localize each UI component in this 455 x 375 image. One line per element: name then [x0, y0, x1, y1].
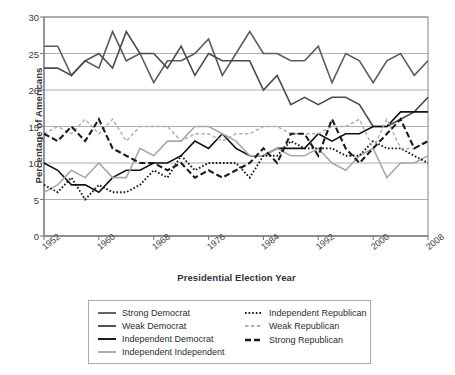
legend-item-label: Strong Democrat: [122, 308, 190, 318]
legend-item-independent-independent[interactable]: Independent Independent: [97, 345, 244, 358]
legend-item-weak-republican[interactable]: Weak Republican: [244, 320, 364, 334]
legend-item-strong-republican[interactable]: Strong Republican: [244, 333, 364, 347]
legend-item-label: Strong Republican: [269, 335, 343, 345]
legend-item-label: Independent Republican: [269, 308, 367, 318]
legend-swatch-icon: [97, 334, 117, 344]
legend-swatch-icon: [244, 321, 264, 331]
chart-figure: 051015202530 Percentage of Americans Pre…: [0, 0, 455, 375]
legend-item-weak-democrat[interactable]: Weak Democrat: [97, 319, 244, 332]
legend-item-independent-democrat[interactable]: Independent Democrat: [97, 332, 244, 345]
legend-swatch-icon: [244, 335, 264, 345]
legend-item-label: Weak Democrat: [122, 321, 186, 331]
legend-item-label: Independent Independent: [122, 347, 225, 357]
legend-swatch-icon: [97, 347, 117, 357]
legend-item-strong-democrat[interactable]: Strong Democrat: [97, 306, 244, 319]
legend-item-independent-republican[interactable]: Independent Republican: [244, 306, 364, 320]
plot-area: [0, 0, 455, 300]
legend-item-label: Weak Republican: [269, 321, 339, 331]
legend-column-right: Independent RepublicanWeak RepublicanStr…: [244, 306, 364, 358]
chart-legend: Strong DemocratWeak DemocratIndependent …: [88, 300, 371, 364]
legend-swatch-icon: [244, 308, 264, 318]
legend-swatch-icon: [97, 321, 117, 331]
legend-swatch-icon: [97, 308, 117, 318]
legend-item-label: Independent Democrat: [122, 334, 214, 344]
legend-column-left: Strong DemocratWeak DemocratIndependent …: [97, 306, 244, 358]
